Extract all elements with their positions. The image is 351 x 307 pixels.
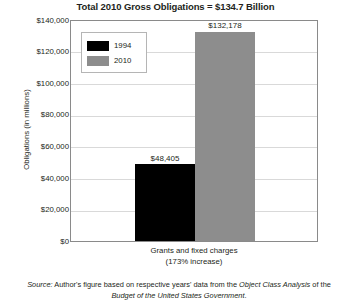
legend-item-2010[interactable]: 2010 [87, 53, 146, 68]
source-italic-budget: Budget of the United States Government [111, 291, 244, 300]
x-axis-category-sub: (173% increase) [70, 257, 318, 268]
gridline-60000 [71, 147, 317, 148]
source-line2-end: . [245, 291, 247, 300]
y-axis-title: Obligations (in millions) [22, 50, 31, 210]
gridline-100000 [71, 84, 317, 85]
gridline-80000 [71, 116, 317, 117]
bar-value-1994: $48,405 [135, 154, 195, 163]
y-tick-label-0: $0 [5, 237, 69, 246]
legend: 1994 2010 [81, 32, 147, 73]
bar-1994[interactable] [135, 164, 195, 241]
bar-value-2010: $132,178 [195, 21, 255, 30]
source-italic-class-analysis: Class Analysis [263, 280, 311, 289]
source-note: Source: Author's figure based on respect… [18, 279, 340, 301]
x-axis-category-main: Grants and fixed charges [150, 246, 237, 255]
legend-swatch-1994-icon [87, 41, 109, 51]
y-tick-label-60000: $60,000 [5, 142, 69, 151]
source-italic-object: Object [239, 280, 260, 289]
y-tick-label-100000: $100,000 [5, 79, 69, 88]
source-line1-rest: Author's figure based on respective year… [53, 280, 239, 289]
y-tick-label-20000: $20,000 [5, 205, 69, 214]
y-tick-label-40000: $40,000 [5, 174, 69, 183]
x-axis-category-label: Grants and fixed charges (173% increase) [70, 246, 318, 267]
y-tick-label-80000: $80,000 [5, 110, 69, 119]
bar-2010[interactable] [195, 32, 255, 242]
legend-label-2010: 2010 [114, 57, 131, 65]
plot-area: $48,405 $132,178 1994 2010 [70, 20, 318, 242]
legend-label-1994: 1994 [114, 42, 131, 50]
legend-swatch-2010-icon [87, 56, 109, 66]
source-line2-mid: of the [310, 280, 331, 289]
y-tick-label-120000: $120,000 [5, 47, 69, 56]
source-prefix: Source: [27, 280, 52, 289]
y-tick-label-140000: $140,000 [5, 16, 69, 25]
legend-item-1994[interactable]: 1994 [87, 38, 146, 53]
chart-title: Total 2010 Gross Obligations = $134.7 Bi… [0, 1, 351, 12]
